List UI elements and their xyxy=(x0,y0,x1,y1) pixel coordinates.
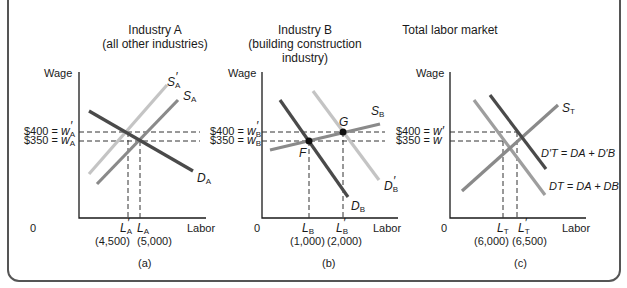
panel-b-qty2-label: LB′ xyxy=(336,216,348,236)
panel-a-wage-low-label: $350 = wA xyxy=(24,133,76,148)
panel-b-x-label: Labor xyxy=(373,222,401,234)
panel-a-x-label: Labor xyxy=(187,222,215,234)
panel-c-y-label: Wage xyxy=(416,67,444,79)
panel-c-qty2-label: LT′ xyxy=(518,216,530,236)
panel-b-wage-low-label: $350 = wB xyxy=(210,133,261,148)
panel-b-point-g xyxy=(340,129,347,136)
panel-c: Wage 0 Labor $400 = w′ $350 = w ST D′T =… xyxy=(396,67,619,269)
panel-b-demand-label: DB xyxy=(351,199,365,214)
panel-a-y-label: Wage xyxy=(44,67,72,79)
panel-a-qty1-label: LA′ xyxy=(120,216,133,236)
panel-b-y-label: Wage xyxy=(228,67,256,79)
panel-b-qty1-value: (1,000) xyxy=(290,235,325,247)
panel-a-supply-curve xyxy=(97,100,178,184)
panel-b-demand-prime-curve xyxy=(313,91,379,180)
panel-b-demand-curve xyxy=(280,100,348,197)
panel-a-qty1-value: (4,500) xyxy=(95,235,130,247)
panel-b-qty2-value: (2,000) xyxy=(327,235,362,247)
panel-b-axes xyxy=(262,72,398,218)
panel-a-demand-label: DA xyxy=(197,171,212,186)
diagram-canvas: Wage 0 Labor $400 = wA′ $350 = wA SA′ SA… xyxy=(0,0,627,288)
panel-b: Wage 0 Labor F G $400 = wB′ $350 = wB SB… xyxy=(210,67,401,269)
panel-c-demand-label: DT = DA + DB xyxy=(549,180,619,192)
panel-a-origin: 0 xyxy=(30,222,36,234)
panel-c-qty2-value: (6,500) xyxy=(512,235,547,247)
panel-a-supply-label: SA xyxy=(183,89,197,104)
panel-b-origin: 0 xyxy=(254,222,260,234)
panel-b-supply-label: SB xyxy=(371,104,384,119)
panel-c-qty1-label: LT xyxy=(497,221,509,236)
panel-a-supply-prime-label: SA′ xyxy=(167,70,181,90)
panel-c-x-label: Labor xyxy=(562,222,590,234)
panel-c-supply-label: ST xyxy=(562,101,575,116)
panel-c-caption: (c) xyxy=(514,257,527,269)
panel-b-qty1-label: LB xyxy=(302,221,314,236)
panel-a: Wage 0 Labor $400 = wA′ $350 = wA SA′ SA… xyxy=(24,67,215,269)
panel-b-demand-prime-label: DB′ xyxy=(384,174,398,194)
panel-b-point-g-label: G xyxy=(339,115,348,129)
panel-c-axes xyxy=(450,72,586,218)
panel-b-caption: (b) xyxy=(322,257,335,269)
panel-c-demand-prime-label: D′T = DA + D′B xyxy=(541,147,615,159)
panel-b-supply-curve xyxy=(270,124,380,150)
panel-b-point-f xyxy=(306,138,313,145)
panel-a-caption: (a) xyxy=(138,257,151,269)
panel-b-point-f-label: F xyxy=(299,146,307,160)
panel-c-qty1-value: (6,000) xyxy=(474,235,509,247)
panel-a-qty2-value: (5,000) xyxy=(137,235,172,247)
panel-a-qty2-label: LA xyxy=(137,221,150,236)
panel-c-origin: 0 xyxy=(441,222,447,234)
panel-c-wage-low-label: $350 = w xyxy=(396,133,443,147)
